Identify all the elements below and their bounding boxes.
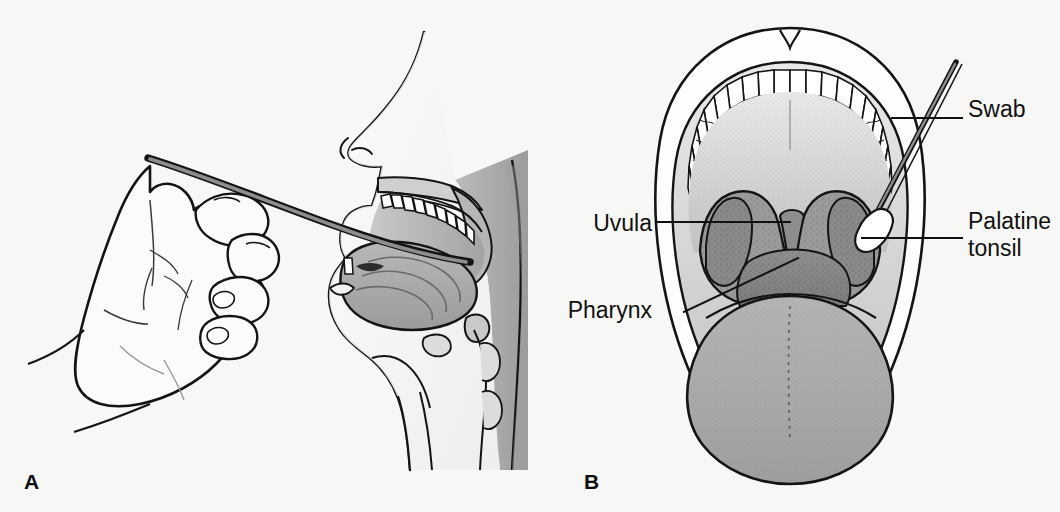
illustration-artwork [0, 0, 1060, 512]
panel-letter-a: A [24, 470, 39, 494]
middle-finger-a [228, 234, 279, 281]
vertebra-a [480, 343, 500, 381]
ring-nail-a [213, 292, 234, 309]
lower-incisor-a [344, 258, 353, 274]
hyoid-a [423, 335, 451, 357]
tongue-stipple-b [687, 296, 893, 484]
label-palatine-line2: tonsil [968, 235, 1022, 261]
panel-letter-b: B [584, 470, 599, 494]
label-swab: Swab [968, 96, 1026, 123]
label-uvula: Uvula [593, 210, 652, 237]
label-palatine-line1: Palatine [968, 208, 1051, 234]
vertebra-b-a [482, 391, 502, 429]
figure-root: Swab Palatinetonsil Uvula Pharynx A B [0, 0, 1060, 512]
label-pharynx: Pharynx [568, 297, 652, 324]
label-palatine-tonsil: Palatinetonsil [968, 208, 1051, 261]
little-nail-a [207, 328, 228, 345]
